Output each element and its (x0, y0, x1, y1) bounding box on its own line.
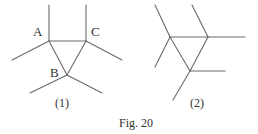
branch-l-down (155, 37, 170, 67)
edge-c-b (67, 41, 86, 75)
branch-m-down (173, 71, 190, 100)
edge-r-m (190, 37, 208, 71)
edge-l-m (170, 37, 190, 71)
branch-b-right (67, 75, 102, 93)
branch-l-up (155, 5, 170, 37)
vertex-label-a: A (33, 24, 43, 39)
branch-a-left (12, 41, 49, 60)
diagram-1: A C B (1) (12, 5, 122, 110)
branch-r-up (192, 5, 208, 37)
diagram-label-1: (1) (55, 96, 69, 110)
figure-caption: Fig. 20 (119, 116, 153, 130)
diagram-2: (2) (155, 5, 245, 110)
figure-20: A C B (1) (2) Fig. 20 (0, 0, 258, 134)
branch-b-left (30, 75, 67, 93)
vertex-label-b: B (50, 65, 59, 80)
vertex-label-c: C (91, 24, 100, 39)
branch-c-right (86, 41, 122, 60)
diagram-label-2: (2) (190, 96, 204, 110)
